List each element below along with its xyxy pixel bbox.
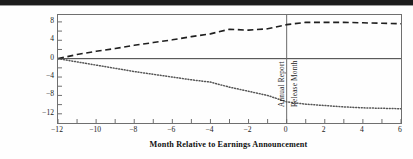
y-tick-label: 4 <box>28 34 54 43</box>
y-tick-label: −4 <box>28 71 54 80</box>
x-axis-ticks <box>58 119 401 123</box>
x-axis-tick-labels: −12−10−8−6−4−20246 <box>57 125 400 137</box>
x-tick-label: 2 <box>309 125 339 134</box>
x-tick-label: −2 <box>233 125 263 134</box>
series-line-negative <box>58 59 401 109</box>
y-axis-ticks <box>58 22 62 114</box>
x-tick-label: 4 <box>347 125 377 134</box>
x-axis-title: Month Relative to Earnings Announcement <box>57 140 400 149</box>
x-tick-label: −6 <box>156 125 186 134</box>
x-tick-label: −4 <box>194 125 224 134</box>
y-axis-tick-labels: 840−4−8−12 <box>28 14 54 122</box>
y-tick-label: 8 <box>28 16 54 25</box>
annual-report-annotation: Annual Report <box>277 45 286 107</box>
x-tick-label: 0 <box>271 125 301 134</box>
x-tick-label: −10 <box>80 125 110 134</box>
figure-container: Price Change Relative to Market Index (%… <box>0 0 413 159</box>
release-month-annotation: Release Month <box>290 45 299 107</box>
chart-svg <box>58 15 401 123</box>
page-top-hairline <box>0 5 413 6</box>
x-tick-label: −12 <box>42 125 72 134</box>
x-tick-label: −8 <box>118 125 148 134</box>
y-tick-label: −8 <box>28 89 54 98</box>
series-line-positive <box>58 22 401 58</box>
y-tick-label: −12 <box>28 108 54 117</box>
plot-area: Annual Report Release Month <box>57 14 402 124</box>
y-tick-label: 0 <box>28 53 54 62</box>
x-tick-label: 6 <box>385 125 413 134</box>
